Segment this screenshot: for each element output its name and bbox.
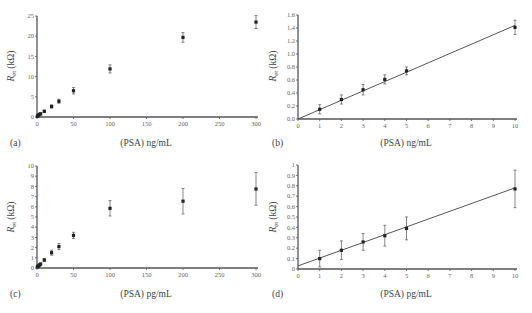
x-tick-label: 4 [383,272,387,279]
y-tick-label: 5 [31,213,34,220]
x-tick-label: 0 [296,272,299,279]
data-point [513,26,516,29]
x-tick-label: 4 [383,122,387,129]
x-tick-label: 300 [251,120,261,127]
panel-label: (b) [272,138,283,149]
y-tick-label: 1.4 [287,24,296,31]
y-tick-label: 1.2 [287,37,295,44]
x-tick-label: 10 [512,122,519,129]
data-point [318,257,321,260]
y-tick-label: 20 [28,32,35,39]
y-tick-label: 0.9 [287,172,295,179]
y-tick-label: 0.2 [287,102,295,109]
data-point [72,89,75,92]
x-tick-label: 9 [492,122,495,129]
data-point [50,251,53,254]
y-tick-label: 1.6 [287,11,296,18]
data-point [405,227,408,230]
chart-panel-c: 050100150200250300012345678910(c)(PSA) p… [6,162,261,300]
y-tick-label: 8 [31,183,34,190]
x-tick-label: 50 [70,120,77,127]
y-tick-label: 3 [31,234,34,241]
chart-panel-b: 0123456789100.00.20.40.60.81.01.21.41.6(… [268,11,518,149]
chart-panel-a: 0501001502002503000510152025(a)(PSA) ng/… [6,12,261,149]
x-tick-label: 200 [178,120,188,127]
y-tick-label: 0.6 [287,203,296,210]
data-point [57,100,60,103]
data-point [254,20,257,23]
y-tick-label: 9 [31,172,34,179]
x-tick-label: 100 [105,271,115,278]
x-tick-label: 0 [35,271,38,278]
x-tick-label: 6 [427,272,431,279]
y-tick-label: 15 [28,53,35,60]
data-point [39,262,42,265]
x-axis-label: (PSA) pg/mL [380,289,432,300]
x-tick-label: 1 [318,272,321,279]
x-tick-label: 250 [215,120,225,127]
panel-label: (a) [10,138,21,149]
x-tick-label: 7 [448,272,452,279]
data-point [72,234,75,237]
chart-panel-d: 01234567891000.10.20.30.40.50.60.70.80.9… [268,161,518,300]
data-point [383,78,386,81]
y-tick-label: 25 [28,12,35,19]
y-tick-label: 2 [31,244,34,251]
y-tick-label: 0.0 [287,115,295,122]
x-tick-label: 5 [405,272,408,279]
x-tick-label: 3 [361,272,364,279]
data-point [340,249,343,252]
data-point [340,98,343,101]
y-tick-label: 6 [31,203,35,210]
x-tick-label: 9 [492,272,495,279]
x-tick-label: 3 [361,122,364,129]
x-axis-label: (PSA) pg/mL [120,289,172,300]
data-point [254,187,257,190]
panel-label: (d) [272,289,283,300]
x-tick-label: 2 [340,122,343,129]
y-tick-label: 0.7 [287,192,296,199]
data-point [39,112,42,115]
x-tick-label: 150 [142,120,152,127]
y-axis-label: Ret (kΩ) [268,201,279,233]
y-tick-label: 0.6 [287,76,296,83]
data-point [181,200,184,203]
y-tick-label: 10 [28,73,35,80]
data-point [362,240,365,243]
y-tick-label: 4 [31,223,35,230]
data-point [513,187,516,190]
y-tick-label: 0.8 [287,63,295,70]
y-tick-label: 7 [31,193,35,200]
y-tick-label: 0.4 [287,89,296,96]
y-tick-label: 10 [28,162,35,169]
y-axis-label: Ret (kΩ) [268,50,279,82]
x-tick-label: 50 [70,271,77,278]
data-point [43,110,46,113]
data-point [43,258,46,261]
x-tick-label: 0 [296,122,299,129]
y-tick-label: 0 [292,265,295,272]
y-tick-label: 1 [31,254,34,261]
x-tick-label: 100 [105,120,115,127]
x-tick-label: 2 [340,272,343,279]
y-tick-label: 0.3 [287,234,295,241]
y-axis-label: Ret (kΩ) [6,50,17,82]
data-point [57,245,60,248]
y-tick-label: 5 [31,93,34,100]
data-point [362,88,365,91]
y-tick-label: 0.8 [287,182,295,189]
x-tick-label: 6 [427,122,431,129]
y-tick-label: 0.1 [287,255,295,262]
y-tick-label: 0 [31,113,34,120]
x-tick-label: 0 [35,120,38,127]
x-tick-label: 8 [470,272,473,279]
x-axis-label: (PSA) ng/mL [380,138,432,149]
x-tick-label: 300 [251,271,261,278]
x-tick-label: 250 [215,271,225,278]
y-tick-label: 0.4 [287,224,296,231]
figure-canvas: 0501001502002503000510152025(a)(PSA) ng/… [0,0,532,313]
panel-label: (c) [10,289,21,300]
x-tick-label: 150 [142,271,152,278]
y-tick-label: 0.2 [287,244,295,251]
x-tick-label: 1 [318,122,321,129]
